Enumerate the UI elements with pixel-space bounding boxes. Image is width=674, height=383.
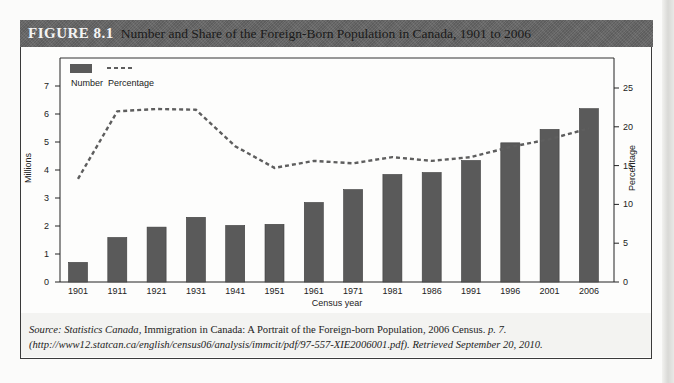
bar-1911 <box>108 237 127 282</box>
left-tick-label: 7 <box>44 81 49 91</box>
right-tick-label: 20 <box>623 122 633 132</box>
x-tick-label: 1986 <box>422 286 442 296</box>
source-line-1: Source: Statistics Canada, Immigration i… <box>29 322 649 337</box>
bar-1971 <box>344 190 363 282</box>
bar-1941 <box>226 225 245 282</box>
x-tick-label: 1941 <box>225 286 245 296</box>
x-tick-label: 1921 <box>147 286 167 296</box>
left-tick-label: 6 <box>44 109 49 119</box>
x-tick-label: 1931 <box>186 286 206 296</box>
bar-1901 <box>69 262 88 282</box>
bar-1996 <box>501 143 520 282</box>
bar-1981 <box>383 174 402 282</box>
right-axis-title: Percentage <box>627 145 637 191</box>
legend-number-label: Number <box>71 78 103 88</box>
source-title: Immigration in Canada: A Portrait of the… <box>141 324 485 335</box>
left-tick-label: 4 <box>44 165 49 175</box>
source-line-2: (http://www12.statcan.ca/english/census0… <box>29 337 649 352</box>
legend-number-swatch <box>70 64 92 73</box>
bar-1921 <box>147 227 166 282</box>
bar-2006 <box>579 109 598 282</box>
source-prefix: Source: Statistics Canada, <box>29 324 141 335</box>
right-tick-label: 5 <box>623 238 628 248</box>
bar-1991 <box>462 160 481 282</box>
right-tick-label: 10 <box>623 199 633 209</box>
bar-1931 <box>186 217 205 282</box>
number-bars <box>69 109 599 282</box>
x-tick-label: 1901 <box>68 286 88 296</box>
x-tick-label: 2006 <box>579 286 599 296</box>
right-tick-label: 25 <box>623 83 633 93</box>
left-tick-label: 0 <box>44 277 49 287</box>
x-tick-label: 1991 <box>461 286 481 296</box>
right-tick-label: 0 <box>623 277 628 287</box>
x-tick-label: 1981 <box>382 286 402 296</box>
source-page: p. 7. <box>485 324 506 335</box>
x-tick-label: 1911 <box>108 286 127 296</box>
x-tick-label: 1951 <box>264 286 284 296</box>
x-axis-tick-labels: 1901191119211931194119511961197119811986… <box>68 286 599 296</box>
left-tick-label: 3 <box>44 193 49 203</box>
left-axis-ticks: 01234567 <box>44 81 60 287</box>
x-tick-label: 1971 <box>343 286 363 296</box>
left-tick-label: 2 <box>44 221 49 231</box>
bar-1951 <box>265 224 284 282</box>
bar-1986 <box>422 173 441 282</box>
legend-percentage-label: Percentage <box>108 78 154 88</box>
x-tick-label: 1961 <box>304 286 324 296</box>
left-axis-title: Millions <box>23 153 33 184</box>
left-tick-label: 1 <box>44 249 49 259</box>
x-tick-label: 1996 <box>500 286 520 296</box>
source-citation: Source: Statistics Canada, Immigration i… <box>29 322 649 352</box>
x-axis-title: Census year <box>312 298 363 308</box>
source-url-retrieved: (http://www12.statcan.ca/english/census0… <box>29 339 543 350</box>
chart-plot-area: 01234567 0510152025 19011911192119311941… <box>0 0 674 320</box>
x-tick-label: 2001 <box>540 286 560 296</box>
bar-1961 <box>304 202 323 282</box>
left-tick-label: 5 <box>44 137 49 147</box>
bar-2001 <box>540 129 559 282</box>
